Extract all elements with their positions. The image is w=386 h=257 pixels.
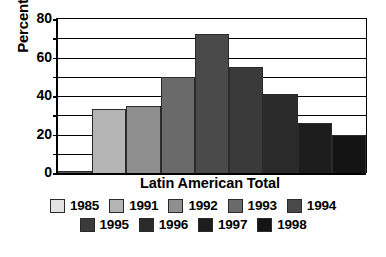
bar-series bbox=[58, 19, 366, 173]
legend-label: 1992 bbox=[188, 198, 217, 213]
x-axis-title: Latin American Total bbox=[56, 175, 364, 191]
y-tick-label: 40 bbox=[22, 88, 52, 102]
legend-item-1996[interactable]: 1996 bbox=[139, 217, 188, 232]
y-tick-label: 60 bbox=[22, 50, 52, 64]
legend-label: 1991 bbox=[129, 198, 158, 213]
legend-item-1994[interactable]: 1994 bbox=[287, 198, 336, 213]
legend-row: 19851991199219931994 bbox=[0, 198, 386, 213]
legend-swatch-icon bbox=[228, 199, 243, 213]
bar-chart-figure: Percent 806040200 Latin American Total 1… bbox=[0, 0, 386, 257]
bar-1991 bbox=[92, 109, 126, 173]
legend-item-1991[interactable]: 1991 bbox=[109, 198, 158, 213]
legend-row: 1995199619971998 bbox=[0, 217, 386, 232]
legend-label: 1996 bbox=[159, 217, 188, 232]
bar-1996 bbox=[263, 94, 297, 173]
legend-item-1997[interactable]: 1997 bbox=[198, 217, 247, 232]
y-tick-label: 80 bbox=[22, 11, 52, 25]
legend-item-1985[interactable]: 1985 bbox=[50, 198, 99, 213]
bar-1998 bbox=[332, 135, 366, 174]
legend-label: 1994 bbox=[307, 198, 336, 213]
legend-swatch-icon bbox=[198, 218, 213, 232]
legend-swatch-icon bbox=[80, 218, 95, 232]
bar-1992 bbox=[126, 106, 160, 173]
legend-swatch-icon bbox=[109, 199, 124, 213]
legend-swatch-icon bbox=[287, 199, 302, 213]
chart-legend: 198519911992199319941995199619971998 bbox=[0, 198, 386, 236]
legend-swatch-icon bbox=[257, 218, 272, 232]
legend-label: 1998 bbox=[277, 217, 306, 232]
legend-item-1992[interactable]: 1992 bbox=[168, 198, 217, 213]
bar-1997 bbox=[298, 123, 332, 173]
legend-item-1998[interactable]: 1998 bbox=[257, 217, 306, 232]
bar-1994 bbox=[195, 34, 229, 173]
y-axis-tick-labels: 806040200 bbox=[22, 10, 52, 180]
legend-label: 1997 bbox=[218, 217, 247, 232]
legend-swatch-icon bbox=[50, 199, 65, 213]
y-tick-label: 20 bbox=[22, 127, 52, 141]
plot-area bbox=[56, 18, 367, 173]
bar-1995 bbox=[229, 67, 263, 173]
legend-label: 1995 bbox=[100, 217, 129, 232]
legend-swatch-icon bbox=[168, 199, 183, 213]
bar-1993 bbox=[161, 77, 195, 173]
legend-swatch-icon bbox=[139, 218, 154, 232]
legend-item-1995[interactable]: 1995 bbox=[80, 217, 129, 232]
legend-item-1993[interactable]: 1993 bbox=[228, 198, 277, 213]
y-tick-label: 0 bbox=[22, 165, 52, 179]
legend-label: 1985 bbox=[70, 198, 99, 213]
legend-label: 1993 bbox=[248, 198, 277, 213]
